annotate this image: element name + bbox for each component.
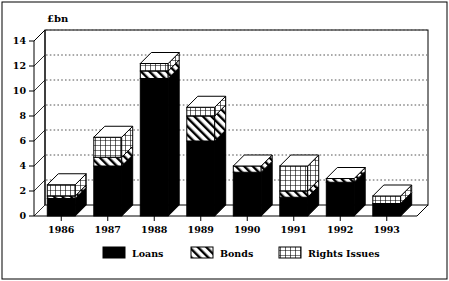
legend-swatch bbox=[103, 247, 125, 258]
bar-segment-front bbox=[326, 179, 354, 183]
x-tick-label: 1986 bbox=[48, 224, 75, 235]
bar-stack bbox=[326, 168, 365, 217]
bar-segment-front bbox=[94, 137, 122, 157]
bar-segment-front bbox=[94, 166, 122, 216]
bar-stack bbox=[47, 174, 86, 216]
bar-stack bbox=[140, 53, 179, 217]
legend-label: Rights Issues bbox=[308, 248, 380, 259]
bar-chart: 02468101214 £bn 198619871988198919901991… bbox=[0, 0, 449, 281]
bar-segment-side bbox=[215, 130, 226, 216]
y-tick bbox=[34, 155, 45, 166]
x-tick-label: 1992 bbox=[327, 224, 353, 235]
x-tick-label: 1990 bbox=[234, 224, 261, 235]
bar-segment-front bbox=[187, 116, 215, 141]
legend-swatch bbox=[279, 247, 301, 258]
legend-swatch bbox=[191, 247, 213, 258]
y-tick bbox=[34, 205, 45, 216]
y-tick-label: 0 bbox=[19, 210, 26, 221]
y-tick-label: 8 bbox=[19, 110, 26, 121]
y-axis-unit-label: £bn bbox=[47, 13, 69, 24]
y-tick-label: 2 bbox=[19, 185, 26, 196]
x-tick-label: 1991 bbox=[281, 224, 307, 235]
bar-segment-front bbox=[233, 166, 261, 172]
x-tick-label: 1987 bbox=[95, 224, 121, 235]
legend-label: Loans bbox=[132, 248, 163, 259]
x-tick-label: 1988 bbox=[141, 224, 168, 235]
bar-segment-front bbox=[233, 172, 261, 216]
bar-segment-front bbox=[187, 141, 215, 216]
chart-container: 02468101214 £bn 198619871988198919901991… bbox=[0, 0, 449, 281]
bar-stack bbox=[187, 96, 226, 216]
y-tick bbox=[34, 55, 45, 66]
y-tick-label: 4 bbox=[19, 160, 26, 171]
bar-stack bbox=[233, 155, 272, 216]
bar-segment-front bbox=[280, 197, 308, 216]
y-tick-label: 6 bbox=[19, 135, 26, 146]
y-tick-label: 14 bbox=[13, 35, 27, 46]
y-tick bbox=[34, 105, 45, 116]
chart-legend: LoansBondsRights Issues bbox=[103, 247, 380, 259]
bar-segment-front bbox=[140, 64, 168, 72]
bar-stack bbox=[373, 185, 412, 216]
x-axis: 19861987198819891990199119921993 bbox=[48, 216, 400, 235]
y-tick bbox=[34, 30, 45, 41]
y-tick-label: 10 bbox=[13, 85, 27, 96]
y-tick bbox=[34, 130, 45, 141]
bar-stack bbox=[280, 155, 319, 216]
legend-label: Bonds bbox=[220, 248, 253, 259]
bar-segment-front bbox=[47, 199, 75, 217]
bar-segment-front bbox=[326, 182, 354, 216]
y-tick bbox=[34, 80, 45, 91]
bar-segment-front bbox=[140, 71, 168, 79]
y-tick-label: 12 bbox=[13, 60, 26, 71]
y-tick bbox=[34, 180, 45, 191]
bar-segment-front bbox=[280, 191, 308, 197]
bar-segment-front bbox=[187, 107, 215, 116]
plot-area bbox=[34, 30, 428, 216]
x-tick-label: 1993 bbox=[374, 224, 400, 235]
bar-stack bbox=[94, 126, 133, 216]
bar-segment-front bbox=[140, 79, 168, 217]
bar-segment-front bbox=[280, 166, 308, 191]
bar-segment-front bbox=[94, 157, 122, 166]
bar-segment-front bbox=[373, 204, 401, 217]
bar-segment-front bbox=[47, 185, 75, 196]
bar-segment-side bbox=[168, 68, 179, 217]
x-tick-label: 1989 bbox=[188, 224, 215, 235]
bar-segment-front bbox=[373, 196, 401, 204]
